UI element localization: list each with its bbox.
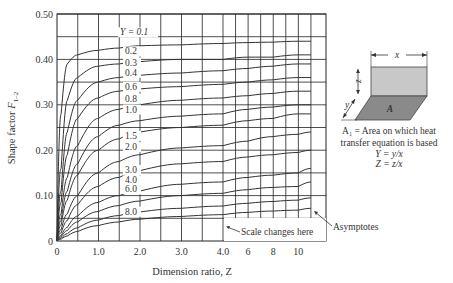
svg-text:0.10: 0.10 — [36, 190, 54, 201]
diagram-area-label: A — [386, 104, 393, 114]
svg-text:10: 10 — [293, 246, 303, 257]
svg-text:0.8: 0.8 — [125, 94, 137, 104]
svg-text:4.0: 4.0 — [217, 246, 230, 257]
scale-change-annotation: Scale changes here — [224, 218, 326, 241]
equation-y: Y = y/x — [375, 149, 403, 159]
equation-z: Z = z/x — [376, 159, 404, 169]
x-axis-title: Dimension ratio, Z — [152, 266, 232, 277]
diagram-x-label: x — [394, 50, 400, 60]
svg-text:0.50: 0.50 — [36, 9, 54, 20]
vertical-surface — [371, 67, 427, 96]
svg-text:2.0: 2.0 — [125, 142, 137, 152]
svg-text:3.0: 3.0 — [175, 246, 188, 257]
svg-text:6.0: 6.0 — [125, 184, 137, 194]
diagram-z-label: z — [353, 79, 363, 84]
svg-text:2.0: 2.0 — [134, 246, 147, 257]
svg-text:1.0: 1.0 — [92, 246, 105, 257]
svg-text:8.0: 8.0 — [125, 207, 137, 217]
x-axis-ticks: 01.02.03.04.06810 — [55, 246, 304, 257]
svg-text:3.0: 3.0 — [125, 165, 137, 175]
caption-line-1: A₁ = Area on which heat — [342, 126, 436, 136]
svg-text:0.40: 0.40 — [36, 54, 54, 65]
y-axis-ticks: 00.100.200.300.400.50 — [36, 9, 54, 247]
svg-text:0.6: 0.6 — [125, 82, 137, 92]
svg-text:Y = 0.1: Y = 0.1 — [120, 27, 148, 37]
grid-lines — [57, 14, 326, 241]
svg-text:0.20: 0.20 — [36, 145, 54, 156]
shape-factor-chart: Y = 0.10.20.30.40.60.81.01.52.03.04.06.0… — [0, 0, 453, 283]
svg-text:1.5: 1.5 — [125, 131, 137, 141]
svg-text:1.0: 1.0 — [125, 105, 137, 115]
diagram-y-label: y — [344, 100, 350, 110]
asymptotes-label: Asymptotes — [333, 222, 379, 232]
svg-text:8: 8 — [271, 246, 276, 257]
svg-text:0.30: 0.30 — [36, 99, 54, 110]
svg-text:0.2: 0.2 — [125, 46, 137, 56]
caption-line-2: transfer equation is based — [341, 138, 438, 148]
svg-text:0.4: 0.4 — [125, 68, 137, 78]
svg-text:6: 6 — [246, 246, 251, 257]
geometry-diagram: x A z y A₁ = Area on which heat transfer… — [341, 49, 438, 169]
svg-text:0: 0 — [48, 236, 53, 247]
svg-text:0.3: 0.3 — [125, 58, 137, 68]
scale-change-label: Scale changes here — [241, 227, 313, 237]
svg-text:0: 0 — [55, 246, 60, 257]
data-curves — [57, 41, 311, 241]
y-axis-title: Shape factor F1–2 — [6, 91, 20, 164]
